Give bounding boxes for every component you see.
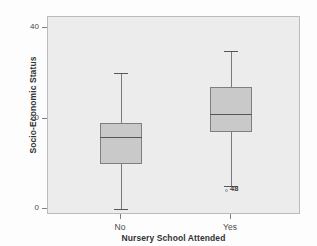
cap-upper [224,51,238,52]
median-line [210,114,252,115]
outlier-case-label: 48 [230,184,238,193]
x-axis-title: Nursery School Attended [47,233,300,243]
x-tick-label-no: No [90,222,150,232]
outlier-point [225,189,228,192]
plot-frame: 48 [47,16,300,214]
x-tick-label-yes: Yes [200,222,260,232]
box-iqr [210,87,252,132]
x-tick-mark-yes [230,214,231,219]
y-tick-label-0: 0 [0,204,39,212]
whisker-lower [231,132,232,186]
boxplot-yes: 48 [48,17,299,213]
y-axis-title: Socio-Economic Status [28,25,38,185]
x-tick-mark-no [120,214,121,219]
whisker-upper [231,51,232,87]
y-tick-label-20: 20 [0,114,39,122]
plot-area: 48 [48,17,299,213]
y-tick-label-40: 40 [0,23,39,31]
boxplot-chart: Socio-Economic Status 40 20 0 48 No Yes … [0,0,317,246]
